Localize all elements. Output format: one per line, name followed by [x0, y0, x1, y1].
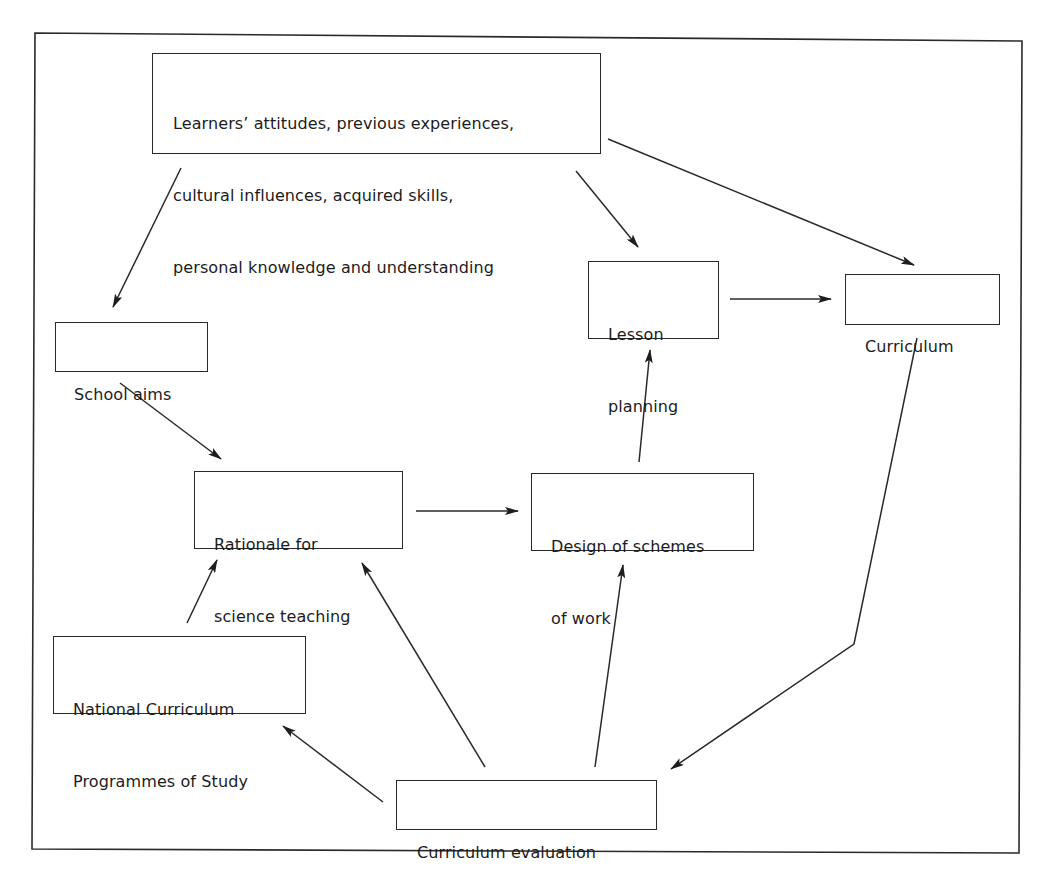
node-design: Design of schemes of work [531, 473, 754, 551]
node-curriculum-label: Curriculum [865, 287, 954, 407]
node-evaluation-label: Curriculum evaluation [417, 793, 596, 884]
label-line: Programmes of Study [73, 770, 248, 794]
label-line: Rationale for [214, 533, 351, 557]
node-school-aims: School aims [55, 322, 208, 372]
node-curriculum: Curriculum [845, 274, 1000, 325]
arrow-evaluation-to-rationale [362, 563, 485, 767]
arrow-learners-to-lesson-planning [576, 171, 638, 247]
label-line: of work [551, 607, 704, 631]
label-line: science teaching [214, 605, 351, 629]
label-line: Design of schemes [551, 535, 704, 559]
label-line: planning [608, 395, 678, 419]
node-national-curriculum-label: National Curriculum Programmes of Study [73, 650, 248, 842]
label-line: Curriculum [865, 335, 954, 359]
node-evaluation: Curriculum evaluation [396, 780, 657, 830]
node-learners-label: Learners’ attitudes, previous experience… [173, 64, 514, 328]
label-line: Lesson [608, 323, 678, 347]
node-lesson-planning-label: Lesson planning [608, 275, 678, 467]
arrow-evaluation-to-national-curriculum [283, 726, 383, 802]
arrow-learners-to-school-aims [113, 168, 181, 307]
node-national-curriculum: National Curriculum Programmes of Study [53, 636, 306, 714]
node-lesson-planning: Lesson planning [588, 261, 719, 339]
arrow-national-curriculum-to-rationale [187, 560, 217, 623]
label-line: personal knowledge and understanding [173, 256, 514, 280]
label-line: cultural influences, acquired skills, [173, 184, 514, 208]
label-line: Learners’ attitudes, previous experience… [173, 112, 514, 136]
diagram-canvas: Learners’ attitudes, previous experience… [0, 0, 1053, 884]
label-line: National Curriculum [73, 698, 248, 722]
label-line: School aims [74, 383, 171, 407]
arrow-learners-to-curriculum [608, 139, 914, 265]
node-rationale: Rationale for science teaching [194, 471, 403, 549]
node-learners: Learners’ attitudes, previous experience… [152, 53, 601, 154]
label-line: Curriculum evaluation [417, 841, 596, 865]
node-school-aims-label: School aims [74, 335, 171, 455]
node-design-label: Design of schemes of work [551, 487, 704, 679]
